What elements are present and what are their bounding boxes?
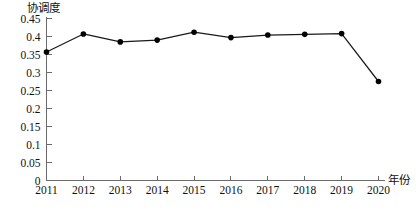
x-axis-tick-label: 2015	[183, 184, 206, 196]
y-axis-ticks	[47, 19, 52, 181]
x-axis-tick-label: 2017	[256, 184, 279, 196]
coordination-degree-line-chart: 00.050.10.150.20.250.30.350.40.45 201120…	[0, 0, 416, 218]
data-point	[191, 29, 197, 35]
y-axis-tick-label: 0.1	[26, 139, 41, 151]
y-axis-tick-label: 0.25	[20, 85, 40, 97]
y-axis-tick-label: 0.2	[26, 103, 41, 115]
x-axis-title: 年份	[388, 173, 411, 187]
data-point	[339, 31, 345, 37]
data-point	[228, 35, 234, 41]
data-point	[81, 31, 87, 37]
y-axis-group: 00.050.10.150.20.250.30.350.40.45	[20, 13, 51, 187]
x-axis-tick-label: 2012	[72, 184, 95, 196]
coordination-degree-data-points	[44, 29, 382, 84]
y-axis-tick-label: 0.05	[20, 157, 40, 169]
data-point	[302, 32, 308, 38]
x-axis-tick-label: 2020	[367, 184, 390, 196]
x-axis-tick-label: 2014	[146, 184, 169, 196]
x-axis-group: 2011201220132014201520162017201820192020	[35, 176, 390, 196]
y-axis-tick-label: 0.3	[26, 67, 41, 79]
data-point	[376, 79, 382, 85]
x-axis-tick-label: 2016	[219, 184, 242, 196]
y-axis-tick-labels: 00.050.10.150.20.250.30.350.40.45	[20, 13, 40, 187]
x-axis-tick-label: 2018	[293, 184, 316, 196]
chart-canvas: 00.050.10.150.20.250.30.350.40.45 201120…	[0, 0, 416, 218]
x-axis-tick-label: 2011	[35, 184, 58, 196]
data-point	[44, 49, 50, 55]
x-axis-tick-label: 2013	[109, 184, 132, 196]
coordination-degree-series-line	[47, 32, 379, 81]
x-axis-ticks	[47, 176, 379, 181]
data-point	[117, 39, 123, 45]
data-point	[265, 32, 271, 38]
data-point	[154, 37, 160, 43]
x-axis-tick-label: 2019	[330, 184, 353, 196]
y-axis-tick-label: 0.35	[20, 49, 40, 61]
x-axis-tick-labels: 2011201220132014201520162017201820192020	[35, 184, 390, 196]
y-axis-tick-label: 0.15	[20, 121, 40, 133]
y-axis-tick-label: 0.4	[26, 31, 41, 43]
y-axis-title: 协调度	[27, 1, 61, 15]
